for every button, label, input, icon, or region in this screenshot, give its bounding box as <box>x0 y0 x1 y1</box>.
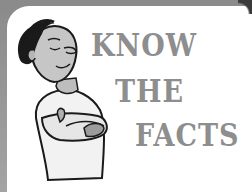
illustration-frame: KNOW THE FACTS <box>0 0 252 192</box>
headline-line-1: KNOW <box>91 30 197 61</box>
headline-line-3: FACTS <box>135 120 240 151</box>
headline-line-2: THE <box>115 76 184 107</box>
